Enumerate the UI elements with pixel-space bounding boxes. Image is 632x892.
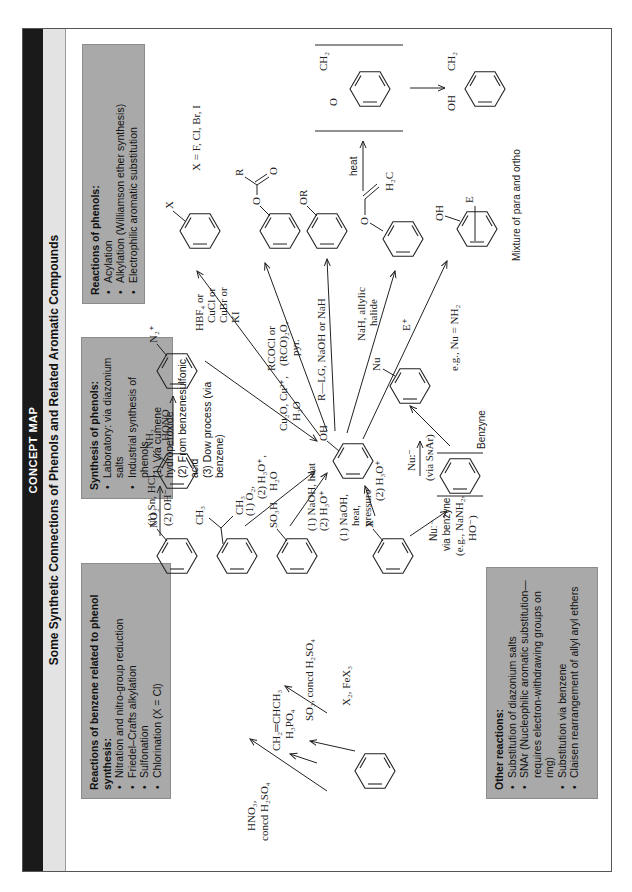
svg-text:heat: heat bbox=[348, 156, 359, 176]
svg-text:concd H₂SO₄: concd H₂SO₄ bbox=[258, 782, 270, 841]
svg-text:CH₂═CHCH₃: CH₂═CHCH₃ bbox=[270, 690, 282, 751]
reaction-diagram: NO₂ CH₃ CH₃ SO₃H X HNO₃, concd H₂SO₄ CH₂… bbox=[65, 27, 613, 871]
svg-text:O: O bbox=[267, 167, 279, 175]
svg-text:SO₃, concd H₂SO₄: SO₃, concd H₂SO₄ bbox=[303, 639, 315, 721]
svg-text:(via SɴAr): (via SɴAr) bbox=[423, 434, 436, 481]
svg-text:X₂, FeX₃: X₂, FeX₃ bbox=[340, 666, 352, 706]
svg-text:Nu:⁻: Nu:⁻ bbox=[428, 520, 439, 541]
svg-text:pressure: pressure bbox=[361, 489, 373, 526]
svg-text:NH₂: NH₂ bbox=[143, 429, 155, 449]
svg-text:O: O bbox=[250, 197, 262, 205]
svg-text:OH: OH bbox=[445, 95, 457, 111]
concept-map-label: CONCEPT MAP bbox=[23, 29, 43, 871]
svg-text:CH₂: CH₂ bbox=[445, 52, 457, 71]
svg-text:HBF₄ or: HBF₄ or bbox=[193, 294, 205, 331]
svg-text:(2) OH⁻: (2) OH⁻ bbox=[161, 489, 174, 526]
svg-text:(e.g., NaNH₂,: (e.g., NaNH₂, bbox=[453, 495, 466, 556]
svg-text:Cu₂O, Cu²⁺,: Cu₂O, Cu²⁺, bbox=[277, 376, 289, 431]
svg-text:X = F, Cl, Br, I: X = F, Cl, Br, I bbox=[190, 105, 202, 171]
svg-text:Nu: Nu bbox=[370, 357, 382, 371]
svg-text:Nu:⁻: Nu:⁻ bbox=[405, 449, 417, 472]
sulfonic-group: SO₃H bbox=[267, 502, 279, 528]
svg-text:KI: KI bbox=[229, 311, 241, 323]
svg-text:halide: halide bbox=[367, 299, 379, 326]
svg-text:pyr.: pyr. bbox=[289, 339, 301, 356]
svg-text:Mixture of para and ortho: Mixture of para and ortho bbox=[511, 149, 522, 261]
svg-text:H₂C: H₂C bbox=[383, 172, 395, 191]
svg-text:HO⁻): HO⁻) bbox=[466, 515, 479, 541]
svg-text:OR: OR bbox=[297, 189, 309, 205]
phenol-ring bbox=[333, 444, 373, 479]
svg-text:HONO: HONO bbox=[159, 409, 171, 441]
phenol-oh: OH bbox=[317, 425, 329, 441]
svg-text:RCOCl or: RCOCl or bbox=[265, 326, 277, 371]
svg-text:via benzyne: via benzyne bbox=[441, 497, 452, 551]
svg-text:O: O bbox=[327, 98, 339, 106]
benzyne-label: Benzyne bbox=[476, 410, 487, 449]
svg-text:R—LG, NaOH or NaH: R—LG, NaOH or NaH bbox=[315, 298, 327, 401]
svg-text:CuCl or: CuCl or bbox=[205, 288, 217, 323]
benzene-ring bbox=[355, 754, 395, 789]
svg-text:NaH, allylic: NaH, allylic bbox=[355, 287, 367, 341]
cumene-ch3-a: CH₃ bbox=[193, 506, 205, 525]
svg-text:E⁺: E⁺ bbox=[400, 318, 412, 331]
svg-text:heat,: heat, bbox=[349, 505, 361, 526]
svg-text:CH₂: CH₂ bbox=[317, 52, 329, 71]
svg-text:OH: OH bbox=[433, 205, 445, 221]
page-title: Some Synthetic Connections of Phenols an… bbox=[43, 29, 66, 871]
svg-text:e.g., Nu = NH₂: e.g., Nu = NH₂ bbox=[448, 305, 460, 371]
svg-text:(1) Sn, HCl: (1) Sn, HCl bbox=[145, 475, 158, 526]
svg-text:HNO₃,: HNO₃, bbox=[245, 800, 257, 831]
svg-text:H₂O: H₂O bbox=[267, 471, 279, 491]
svg-text:H₃PO₄: H₃PO₄ bbox=[283, 709, 295, 739]
svg-text:R: R bbox=[233, 168, 245, 176]
svg-text:N₂⁺: N₂⁺ bbox=[147, 325, 159, 343]
svg-text:E: E bbox=[463, 196, 475, 203]
svg-text:X: X bbox=[163, 201, 175, 209]
concept-map-page: CONCEPT MAP Some Synthetic Connections o… bbox=[22, 28, 612, 872]
svg-text:O: O bbox=[358, 217, 370, 225]
svg-text:CuBr or: CuBr or bbox=[217, 287, 229, 323]
svg-text:(2) H₃O⁺: (2) H₃O⁺ bbox=[317, 490, 330, 531]
svg-text:(2) H₃O⁺: (2) H₃O⁺ bbox=[373, 460, 386, 501]
